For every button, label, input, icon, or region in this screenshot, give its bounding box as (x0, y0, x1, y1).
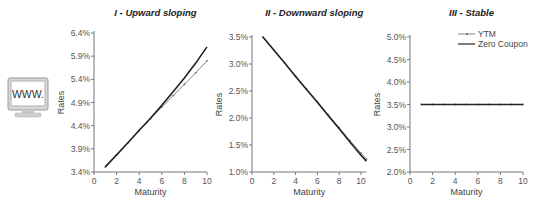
y-axis-label: Rates (372, 92, 382, 116)
ytm-marker (184, 84, 186, 86)
x-tick-label: 8 (182, 176, 187, 186)
y-tick-label: 2.0% (387, 167, 407, 177)
ytm-marker (195, 72, 197, 74)
y-tick-label: 3.5% (229, 32, 249, 42)
x-tick-label: 0 (250, 176, 255, 186)
y-tick-label: 1.0% (229, 167, 249, 177)
x-axis-label: Maturity (450, 187, 483, 197)
x-tick-label: 6 (159, 176, 164, 186)
y-tick-label: 3.0% (229, 59, 249, 69)
y-tick-label: 1.5% (229, 140, 249, 150)
x-axis-label: Maturity (134, 187, 167, 197)
x-axis-label: Maturity (293, 187, 326, 197)
yield-curve-figure: WWW. I - Upward sloping3.4%3.9%4.4%4.9%5… (0, 0, 538, 205)
y-tick-label: 2.0% (229, 113, 249, 123)
chart-1: I - Upward sloping3.4%3.9%4.4%4.9%5.4%5.… (56, 7, 212, 197)
ytm-marker (172, 95, 174, 97)
legend-item-ytm: YTM (478, 29, 496, 39)
x-tick-label: 6 (315, 176, 320, 186)
y-tick-label: 5.4% (71, 74, 91, 84)
x-tick-label: 4 (453, 176, 458, 186)
y-tick-label: 4.0% (387, 77, 407, 87)
chart-3: III - Stable2.0%2.5%3.0%3.5%4.0%4.5%5.0%… (372, 7, 528, 197)
y-tick-label: 4.5% (387, 55, 407, 65)
y-tick-label: 6.4% (71, 28, 91, 38)
x-tick-label: 2 (114, 176, 119, 186)
x-tick-label: 4 (293, 176, 298, 186)
chart-2: II - Downward sloping1.0%1.5%2.0%2.5%3.0… (214, 7, 367, 197)
ytm-marker (206, 60, 208, 62)
www-monitor-icon: WWW. (8, 78, 48, 117)
x-tick-label: 10 (356, 176, 366, 186)
y-tick-label: 2.5% (387, 145, 407, 155)
y-tick-label: 3.9% (71, 144, 91, 154)
x-tick-label: 2 (430, 176, 435, 186)
zero-coupon-line (263, 37, 367, 161)
chart-title: I - Upward sloping (114, 7, 197, 18)
x-tick-label: 8 (337, 176, 342, 186)
x-tick-label: 8 (498, 176, 503, 186)
legend: YTMZero Coupon (458, 29, 528, 49)
y-axis-label: Rates (214, 92, 224, 116)
y-tick-label: 4.9% (71, 98, 91, 108)
y-tick-label: 3.5% (387, 100, 407, 110)
x-tick-label: 2 (271, 176, 276, 186)
chart-title: III - Stable (449, 7, 495, 18)
chart-title: II - Downward sloping (265, 7, 363, 18)
x-tick-label: 6 (475, 176, 480, 186)
x-tick-label: 10 (202, 176, 212, 186)
zero-coupon-line (105, 47, 207, 167)
y-tick-label: 5.0% (387, 32, 407, 42)
x-tick-label: 0 (92, 176, 97, 186)
www-label: WWW. (12, 88, 44, 100)
x-tick-label: 4 (137, 176, 142, 186)
y-tick-label: 5.9% (71, 51, 91, 61)
y-axis-label: Rates (56, 90, 66, 114)
x-tick-label: 0 (408, 176, 413, 186)
y-tick-label: 3.0% (387, 122, 407, 132)
y-tick-label: 2.5% (229, 86, 249, 96)
y-tick-label: 4.4% (71, 121, 91, 131)
y-tick-label: 3.4% (71, 167, 91, 177)
x-tick-label: 10 (518, 176, 528, 186)
legend-item-zero: Zero Coupon (478, 39, 528, 49)
